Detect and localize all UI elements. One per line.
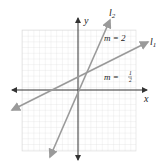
svg-text:m =: m = — [104, 72, 119, 82]
y-axis-label: y — [83, 15, 89, 26]
slope-label-l2: m = 2 — [104, 33, 126, 43]
l1-label: l1 — [150, 36, 156, 49]
svg-text:1: 1 — [129, 70, 132, 76]
svg-text:2: 2 — [129, 77, 132, 83]
l2-label: l2 — [109, 7, 116, 20]
x-axis-label: x — [143, 93, 149, 104]
coordinate-plane: y x l2 l1 m = 2 m = 1 2 — [0, 0, 164, 167]
